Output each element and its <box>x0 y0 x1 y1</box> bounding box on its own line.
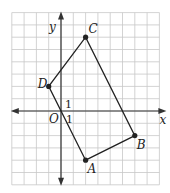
point-label-d: D <box>37 77 48 91</box>
quadrilateral: ABCD <box>37 22 146 176</box>
y-axis-label: y <box>48 20 56 34</box>
point-label-a: A <box>87 162 97 176</box>
x-unit-label: 1 <box>66 113 73 126</box>
x-axis-label: x <box>159 113 166 127</box>
point-c <box>83 35 88 40</box>
y-unit-label: 1 <box>65 98 72 111</box>
point-label-c: C <box>89 22 98 36</box>
point-label-b: B <box>136 138 146 152</box>
origin-label: O <box>49 112 59 126</box>
coordinate-plane: ABCD x y O 1 1 <box>0 0 170 193</box>
